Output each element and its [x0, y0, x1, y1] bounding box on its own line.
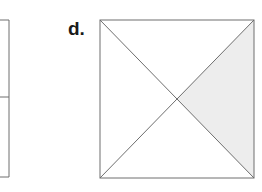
partial-figure-left-edge	[0, 20, 9, 177]
geometry-figure-canvas	[0, 0, 262, 192]
part-label-d: d.	[68, 19, 85, 38]
figure-page: d.	[0, 0, 262, 192]
